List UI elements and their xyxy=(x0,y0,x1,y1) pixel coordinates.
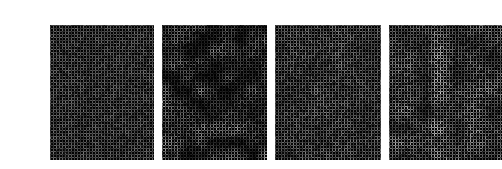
micrograph-panel-d xyxy=(389,25,502,160)
micrograph-image-b xyxy=(162,25,267,160)
panel-caption-d: (라) xyxy=(349,148,462,159)
micrograph-canvas-c xyxy=(275,25,381,160)
micrograph-canvas-d xyxy=(389,25,502,160)
micrograph-canvas-a xyxy=(50,25,154,160)
micrograph-canvas-b xyxy=(162,25,267,160)
micrograph-image-d xyxy=(389,25,502,160)
panel-caption-a: (가) xyxy=(10,148,114,159)
panel-caption-c: (다) xyxy=(235,148,341,159)
micrograph-panel-a xyxy=(50,25,154,160)
micrograph-panel-c xyxy=(275,25,381,160)
panel-caption-b: (나) xyxy=(122,148,227,159)
micrograph-panel-b xyxy=(162,25,267,160)
micrograph-image-a xyxy=(50,25,154,160)
micrograph-image-c xyxy=(275,25,381,160)
